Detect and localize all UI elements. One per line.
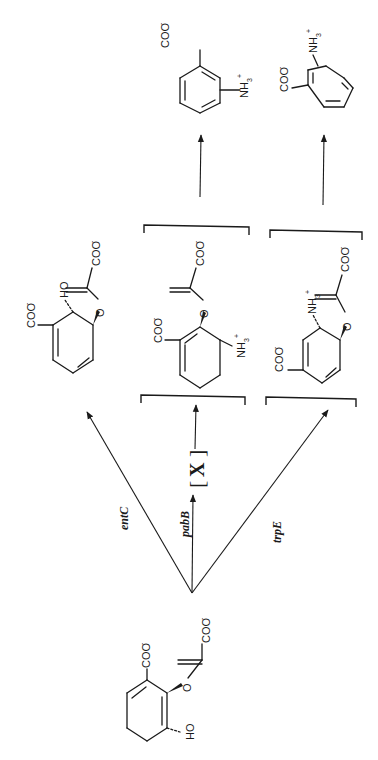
- svg-text:]: ]: [184, 450, 209, 457]
- svg-text:NH: NH: [307, 37, 319, 53]
- svg-text:[: [: [184, 481, 209, 488]
- enzyme-label-trpE: trpE: [270, 521, 284, 543]
- svg-text:-: -: [276, 66, 283, 69]
- svg-text:3: 3: [315, 33, 322, 37]
- svg-text:NH: NH: [235, 342, 247, 358]
- svg-text:+: +: [305, 29, 312, 33]
- arrow-to-anthranilate: [323, 135, 324, 205]
- svg-text:3: 3: [243, 338, 250, 342]
- svg-text:-: -: [157, 22, 164, 25]
- svg-text:COO: COO: [159, 23, 171, 49]
- arrow-trpE: [192, 410, 328, 593]
- molecule-anthranilate: COO - NH 3 +: [276, 29, 353, 107]
- svg-text:-: -: [23, 302, 30, 305]
- svg-text:COO: COO: [339, 247, 351, 273]
- svg-text:pabB: pabB: [178, 511, 192, 538]
- arrow-x-to-adc: [195, 405, 196, 449]
- svg-text:COO: COO: [90, 241, 102, 267]
- svg-text:HO: HO: [58, 281, 70, 298]
- molecule-isochorismate: COO - HO O COO -: [23, 240, 106, 373]
- intermediate-x: [ X ]: [184, 450, 209, 488]
- svg-text:-: -: [88, 240, 95, 243]
- svg-text:3: 3: [246, 78, 253, 82]
- svg-text:COO: COO: [278, 67, 290, 93]
- svg-text:O: O: [94, 308, 106, 317]
- svg-text:+: +: [233, 334, 240, 338]
- svg-text:O: O: [341, 322, 353, 331]
- molecule-aminodeoxychorismate: COO - O COO - NH 3 +: [141, 225, 250, 405]
- svg-text:entC: entC: [117, 506, 131, 530]
- svg-text:-: -: [337, 246, 344, 249]
- arrow-to-pab: [200, 135, 201, 197]
- enzyme-label-pabB: pabB: [178, 511, 192, 538]
- ring: [127, 680, 167, 741]
- svg-text:NH: NH: [238, 82, 250, 98]
- enzyme-label-entC: entC: [117, 506, 131, 530]
- svg-text:+: +: [236, 74, 243, 78]
- pathway-diagram: COO - O COO - HO entC pabB tr: [0, 0, 378, 760]
- hydroxyl-label: HO: [184, 723, 196, 740]
- svg-text:NH: NH: [306, 298, 318, 314]
- svg-text:-: -: [192, 240, 199, 243]
- svg-text:O: O: [198, 309, 210, 318]
- svg-text:-: -: [198, 617, 205, 620]
- arrow-entC: [87, 412, 192, 593]
- svg-text:COO: COO: [200, 618, 212, 644]
- svg-text:COO: COO: [152, 318, 164, 344]
- svg-text:COO: COO: [25, 303, 37, 329]
- molecule-p-aminobenzoate: COO - NH 3 +: [157, 22, 253, 113]
- carboxylate-label: COO -: [138, 642, 152, 668]
- svg-text:-: -: [271, 346, 278, 349]
- svg-text:COO: COO: [194, 241, 206, 267]
- svg-text:-: -: [138, 642, 145, 645]
- arrow-pabB: [192, 495, 193, 593]
- oxygen-label: O: [181, 683, 193, 692]
- molecule-aminodeoxyisochorismate: COO - NH 3 + O COO -: [266, 230, 362, 407]
- svg-text:trpE: trpE: [270, 521, 284, 543]
- svg-text:X: X: [186, 462, 208, 477]
- svg-text:-: -: [150, 317, 157, 320]
- svg-text:COO: COO: [140, 643, 152, 669]
- svg-text:+: +: [304, 290, 311, 294]
- molecule-chorismate: COO - O COO - HO: [127, 617, 212, 741]
- svg-text:COO: COO: [273, 347, 285, 373]
